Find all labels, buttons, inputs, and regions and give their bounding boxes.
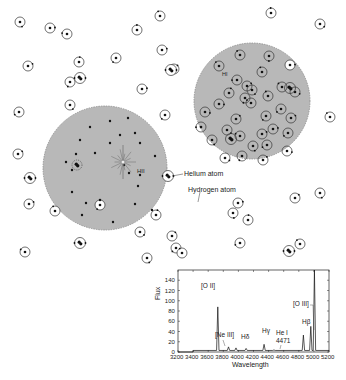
peak-label-oii: [O II] [201, 283, 215, 290]
peak-label-neiii: [Ne III] [215, 332, 234, 339]
y-axis-title: Flux [154, 287, 161, 300]
peak-label-hgamma: Hγ [262, 328, 270, 335]
x-tick-label: 3400 [185, 354, 198, 360]
peak-label-hei-wavelength: 4471 [276, 338, 290, 345]
peak-label-oiii: [O III] [293, 301, 309, 308]
y-tick-label: 100 [165, 298, 175, 304]
y-tick-label: 20 [168, 339, 175, 345]
x-tick-label: 3600 [200, 354, 213, 360]
x-tick-label: 4400 [261, 354, 274, 360]
x-axis-title: Wavelength [232, 361, 269, 368]
x-tick-label: 5200 [321, 354, 334, 360]
x-tick-label: 5000 [306, 354, 319, 360]
y-tick-label: 40 [168, 329, 175, 335]
y-tick-label: 80 [168, 308, 175, 314]
peak-label-hdelta: Hδ [241, 334, 249, 341]
y-tick-label: 60 [168, 318, 175, 324]
y-tick-label: 120 [165, 288, 175, 294]
peak-label-hei: He I [276, 330, 288, 337]
x-tick-label: 4200 [246, 354, 259, 360]
diagram-canvas: HII HI Helium atom Hydrogen atom 3200340… [0, 0, 346, 380]
x-tick-label: 4600 [276, 354, 289, 360]
x-tick-label: 4000 [230, 354, 243, 360]
y-tick-label: 0 [172, 349, 175, 355]
x-tick-label: 3800 [215, 354, 228, 360]
x-tick-label: 4800 [291, 354, 304, 360]
y-tick-label: 140 [165, 277, 175, 283]
peak-label-hbeta: Hβ [302, 319, 310, 326]
